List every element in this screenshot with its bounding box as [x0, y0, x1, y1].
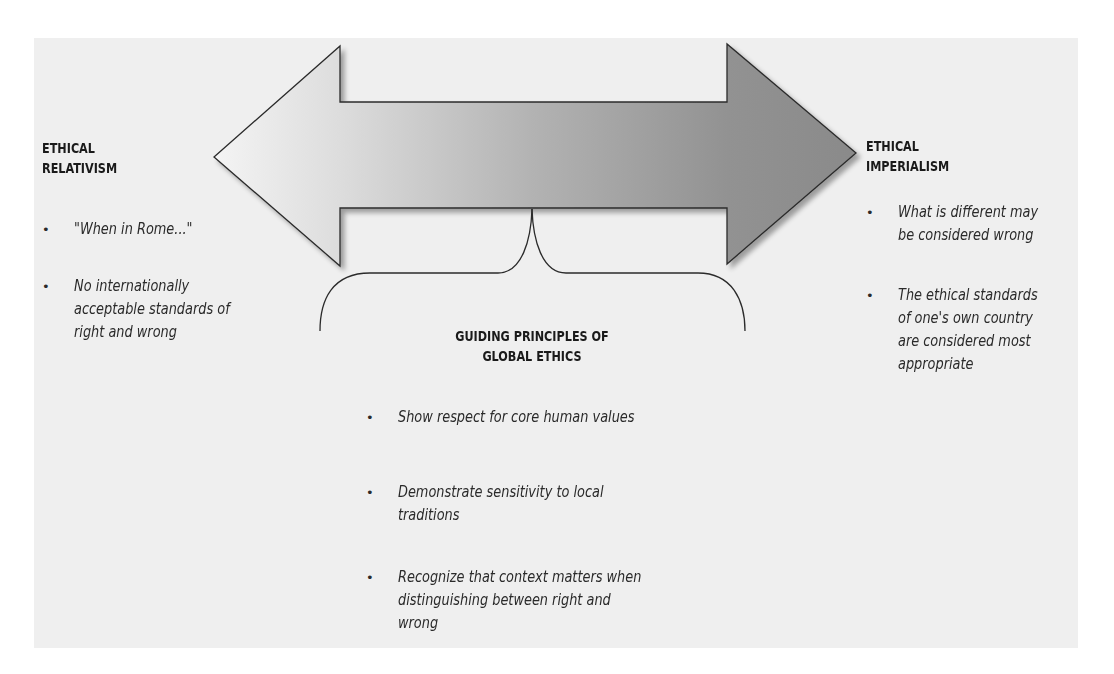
left-heading-line1: ETHICAL — [42, 138, 117, 158]
bullet-icon: • — [366, 481, 374, 504]
right-heading-line2: IMPERIALISM — [866, 156, 949, 176]
list-item: • "When in Rome..." — [42, 218, 255, 241]
bullet-icon: • — [366, 406, 374, 429]
left-heading: ETHICAL RELATIVISM — [42, 138, 117, 178]
list-item: • Demonstrate sensitivity to local tradi… — [366, 481, 681, 527]
center-heading-line1: GUIDING PRINCIPLES OF — [403, 326, 661, 346]
left-bullet-list: • "When in Rome..." • No internationally… — [42, 218, 255, 344]
list-item: • No internationally acceptable standard… — [42, 275, 255, 344]
bullet-icon: • — [42, 218, 50, 241]
bullet-icon: • — [866, 284, 874, 307]
right-heading: ETHICAL IMPERIALISM — [866, 136, 949, 176]
right-heading-line1: ETHICAL — [866, 136, 949, 156]
bullet-icon: • — [42, 275, 50, 298]
list-item: • Recognize that context matters when di… — [366, 566, 681, 635]
left-heading-line2: RELATIVISM — [42, 158, 117, 178]
list-item: • The ethical standards of one's own cou… — [866, 284, 1061, 376]
bullet-icon: • — [866, 201, 874, 224]
curly-brace-icon — [320, 209, 745, 331]
list-item: • What is different may be considered wr… — [866, 201, 1061, 247]
center-bullet-list: • Show respect for core human values • D… — [366, 406, 681, 635]
center-heading: GUIDING PRINCIPLES OF GLOBAL ETHICS — [403, 326, 661, 366]
bullet-icon: • — [366, 566, 374, 589]
right-bullet-list: • What is different may be considered wr… — [866, 201, 1061, 376]
center-heading-line2: GLOBAL ETHICS — [403, 346, 661, 366]
list-item: • Show respect for core human values — [366, 406, 681, 429]
